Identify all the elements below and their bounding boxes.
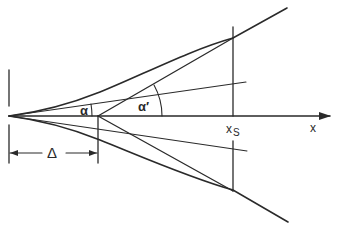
lower-boundary-curve [9, 116, 288, 222]
xs-label-base: x [226, 122, 232, 136]
lower-origin-ray [9, 116, 247, 151]
upper-origin-ray [9, 82, 246, 116]
delta-label: Δ [47, 144, 57, 161]
xs-label: xS [226, 122, 240, 138]
lower-tangent-line [98, 116, 233, 191]
alpha-prime-label: α′ [138, 99, 149, 114]
alpha-label: α [80, 103, 88, 118]
alpha-prime-angle-arc [154, 85, 162, 116]
xs-label-subscript: S [233, 127, 240, 138]
x-axis-label: x [310, 121, 316, 135]
alpha-angle-arc [91, 104, 92, 116]
diagram-canvas: α α′ Δ xS x [0, 0, 338, 229]
upper-tangent-line [98, 38, 233, 116]
